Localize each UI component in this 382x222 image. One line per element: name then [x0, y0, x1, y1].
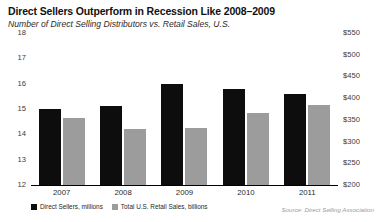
y-axis-left-tick: 12	[4, 181, 26, 189]
bar-group	[277, 33, 338, 185]
y-axis-left-tick: 18	[4, 29, 26, 37]
y-axis-right-tick: $200	[343, 181, 360, 189]
y-axis-right-tick: $250	[343, 159, 360, 167]
x-axis-label: 2011	[277, 188, 338, 197]
y-axis-left-tick: 16	[4, 80, 26, 88]
x-axis-label: 2010	[215, 188, 276, 197]
x-axis-labels: 20072008200920102011	[31, 188, 338, 200]
bar-direct-sellers	[284, 94, 306, 185]
y-axis-left: 18171615141312	[0, 33, 26, 185]
y-axis-left-tick: 13	[4, 156, 26, 164]
chart-title: Direct Sellers Outperform in Recession L…	[8, 5, 275, 17]
bar-retail-sales	[63, 118, 85, 185]
bar-direct-sellers	[223, 89, 245, 185]
y-axis-left-tick: 14	[4, 130, 26, 138]
source-note: Source: Direct Selling Association	[281, 206, 374, 213]
y-axis-right-tick: $550	[343, 29, 360, 37]
legend-item[interactable]: Direct Sellers, millions	[31, 204, 103, 210]
bar-retail-sales	[124, 129, 146, 185]
bar-retail-sales	[185, 128, 207, 185]
bar-retail-sales	[308, 105, 330, 185]
bar-direct-sellers	[100, 106, 122, 185]
plot-area	[31, 33, 338, 185]
x-axis-label: 2009	[154, 188, 215, 197]
axis-baseline	[31, 185, 338, 186]
y-axis-right-tick: $450	[343, 72, 360, 80]
legend-item[interactable]: Total U.S. Retail Sales, billions	[112, 204, 208, 210]
x-axis-label: 2008	[92, 188, 153, 197]
chart-legend: Direct Sellers, millionsTotal U.S. Retai…	[31, 204, 208, 210]
y-axis-right-tick: $400	[343, 94, 360, 102]
y-axis-right-tick: $350	[343, 116, 360, 124]
x-axis-label: 2007	[31, 188, 92, 197]
y-axis-left-tick: 17	[4, 54, 26, 62]
bar-group	[31, 33, 92, 185]
chart-container: Direct Sellers Outperform in Recession L…	[0, 0, 382, 222]
bar-direct-sellers	[161, 84, 183, 185]
bar-retail-sales	[247, 113, 269, 185]
bar-group	[92, 33, 153, 185]
legend-label: Total U.S. Retail Sales, billions	[121, 204, 208, 210]
y-axis-right-tick: $500	[343, 51, 360, 59]
chart-subtitle: Number of Direct Selling Distributors vs…	[8, 19, 230, 29]
y-axis-left-tick: 15	[4, 105, 26, 113]
bar-direct-sellers	[39, 109, 61, 185]
legend-swatch-retail-sales	[112, 204, 118, 210]
bar-group	[154, 33, 215, 185]
bar-group	[215, 33, 276, 185]
y-axis-right-tick: $300	[343, 138, 360, 146]
y-axis-right: $550$500$450$400$350$300$250$200	[343, 33, 382, 185]
legend-swatch-direct-sellers	[31, 204, 37, 210]
legend-label: Direct Sellers, millions	[40, 204, 103, 210]
